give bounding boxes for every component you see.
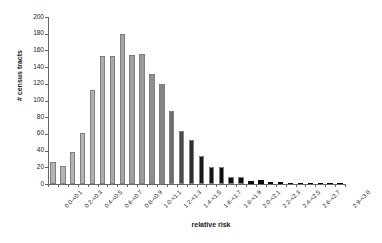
x-axis-tick-mark	[177, 184, 178, 187]
x-axis-tick-mark	[206, 184, 207, 187]
bar[interactable]	[298, 183, 303, 184]
x-axis-tick-label: 2.4-<2.5	[301, 189, 321, 209]
x-axis-tick-mark	[197, 184, 198, 187]
x-axis-tick-mark	[48, 184, 49, 187]
bar[interactable]	[110, 56, 115, 184]
x-axis-tick-mark	[187, 184, 188, 187]
bar-slot	[98, 17, 108, 184]
x-axis-tick-mark	[216, 184, 217, 187]
bar[interactable]	[60, 166, 65, 184]
x-axis-tick-label: 0.4-<0.5	[103, 189, 123, 209]
bar[interactable]	[278, 182, 283, 184]
x-axis-tick-label: 2.2-<2.3	[282, 189, 302, 209]
x-axis-tick-mark	[117, 184, 118, 187]
x-axis-tick-mark	[325, 184, 326, 187]
x-axis-tick-label: 2.0-<2.1	[262, 189, 282, 209]
bar[interactable]	[248, 181, 253, 184]
x-axis-tick-mark	[335, 184, 336, 187]
y-axis-tick-label: 60	[18, 130, 44, 137]
bar-slot	[107, 17, 117, 184]
bar-series	[48, 17, 345, 184]
bar[interactable]	[327, 183, 332, 184]
bar-slot	[335, 17, 345, 184]
bar[interactable]	[199, 156, 204, 184]
bar[interactable]	[120, 34, 125, 184]
bar[interactable]	[288, 183, 293, 184]
bar[interactable]	[219, 167, 224, 184]
bar-slot	[226, 17, 236, 184]
x-axis-tick-mark	[315, 184, 316, 187]
bar-slot	[177, 17, 187, 184]
x-axis-tick-mark	[296, 184, 297, 187]
x-axis-tick-mark	[226, 184, 227, 187]
bar[interactable]	[159, 84, 164, 184]
bar[interactable]	[228, 177, 233, 185]
x-axis-tick-mark	[127, 184, 128, 187]
x-axis-tick-mark	[236, 184, 237, 187]
bar[interactable]	[139, 54, 144, 184]
y-axis-tick-label: 160	[18, 47, 44, 54]
bar[interactable]	[149, 74, 154, 184]
bar[interactable]	[50, 162, 55, 184]
x-axis-tick-label: 1.0-<1.1	[163, 189, 183, 209]
bar[interactable]	[100, 56, 105, 184]
x-axis-tick-label: 1.6-<1.7	[222, 189, 242, 209]
bar-slot	[167, 17, 177, 184]
bar-slot	[147, 17, 157, 184]
bar[interactable]	[80, 133, 85, 184]
y-axis-tick-label: 120	[18, 80, 44, 87]
x-axis-tick-label: 1.8-<1.9	[242, 189, 262, 209]
x-axis-tick-mark	[266, 184, 267, 187]
bar-slot	[58, 17, 68, 184]
bar-slot	[246, 17, 256, 184]
y-axis-tick-label: 20	[18, 164, 44, 171]
bar[interactable]	[169, 111, 174, 184]
y-axis-tick-label: 140	[18, 64, 44, 71]
x-axis-tick-mark	[305, 184, 306, 187]
y-axis-tick-label: 200	[18, 14, 44, 21]
bar-slot	[216, 17, 226, 184]
bar-slot	[276, 17, 286, 184]
bar-slot	[296, 17, 306, 184]
bar[interactable]	[90, 90, 95, 184]
x-axis-tick-mark	[157, 184, 158, 187]
bar-slot	[137, 17, 147, 184]
bar-slot	[236, 17, 246, 184]
bar[interactable]	[209, 167, 214, 184]
bar[interactable]	[337, 183, 342, 184]
bar-slot	[197, 17, 207, 184]
x-axis-tick-mark	[98, 184, 99, 187]
bar-slot	[325, 17, 335, 184]
bar-slot	[157, 17, 167, 184]
bar[interactable]	[70, 152, 75, 184]
x-axis-tick-label: 2.6-<2.7	[321, 189, 341, 209]
y-axis-tick-label: 80	[18, 114, 44, 121]
x-axis-tick-mark	[88, 184, 89, 187]
x-axis-tick-mark	[276, 184, 277, 187]
x-axis-title: relative risk	[0, 221, 382, 228]
x-axis-tick-mark	[137, 184, 138, 187]
bar-slot	[305, 17, 315, 184]
x-axis-tick-mark	[286, 184, 287, 187]
bar[interactable]	[238, 177, 243, 185]
bar-slot	[256, 17, 266, 184]
bar[interactable]	[179, 131, 184, 184]
x-axis-tick-label: 0.2-<0.3	[84, 189, 104, 209]
bar-slot	[127, 17, 137, 184]
bar-slot	[187, 17, 197, 184]
bar[interactable]	[258, 180, 263, 184]
x-axis-tick-mark	[345, 184, 346, 187]
bar[interactable]	[129, 55, 134, 184]
bar-slot	[68, 17, 78, 184]
bar[interactable]	[308, 183, 313, 184]
bar-slot	[266, 17, 276, 184]
bar-slot	[48, 17, 58, 184]
bar[interactable]	[189, 140, 194, 184]
bar-slot	[88, 17, 98, 184]
bar[interactable]	[318, 183, 323, 184]
x-axis-tick-label: 0.0-<0.1	[64, 189, 84, 209]
bar-slot	[78, 17, 88, 184]
bar[interactable]	[268, 182, 273, 184]
y-axis-tick-label: 100	[18, 97, 44, 104]
x-axis-tick-mark	[147, 184, 148, 187]
